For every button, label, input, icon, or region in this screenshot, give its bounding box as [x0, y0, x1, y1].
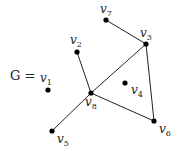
- node-v3: [143, 41, 148, 46]
- node-v7: [103, 17, 108, 22]
- node-label-v1: v1: [40, 71, 52, 87]
- node-label-v2: v2: [70, 33, 82, 49]
- node-label-v8: v8: [85, 95, 97, 111]
- graph-diagram: G = v1v2v3v4v5v6v7v8: [0, 0, 181, 151]
- node-v4: [122, 80, 127, 85]
- node-label-v7: v7: [100, 2, 112, 18]
- graph-title: G =: [10, 68, 35, 83]
- labels-group: v1v2v3v4v5v6v7v8: [40, 2, 171, 148]
- node-label-v6: v6: [159, 122, 171, 138]
- edge-v2-v8: [77, 52, 91, 93]
- node-v5: [49, 128, 54, 133]
- node-label-v3: v3: [140, 26, 152, 42]
- edge-v8-v6: [91, 93, 154, 121]
- edge-v3-v6: [146, 44, 154, 121]
- node-v6: [151, 118, 156, 123]
- node-v1: [45, 87, 50, 92]
- node-label-v5: v5: [57, 132, 69, 148]
- node-v2: [74, 49, 79, 54]
- node-label-v4: v4: [131, 83, 143, 99]
- edges-group: [52, 20, 154, 131]
